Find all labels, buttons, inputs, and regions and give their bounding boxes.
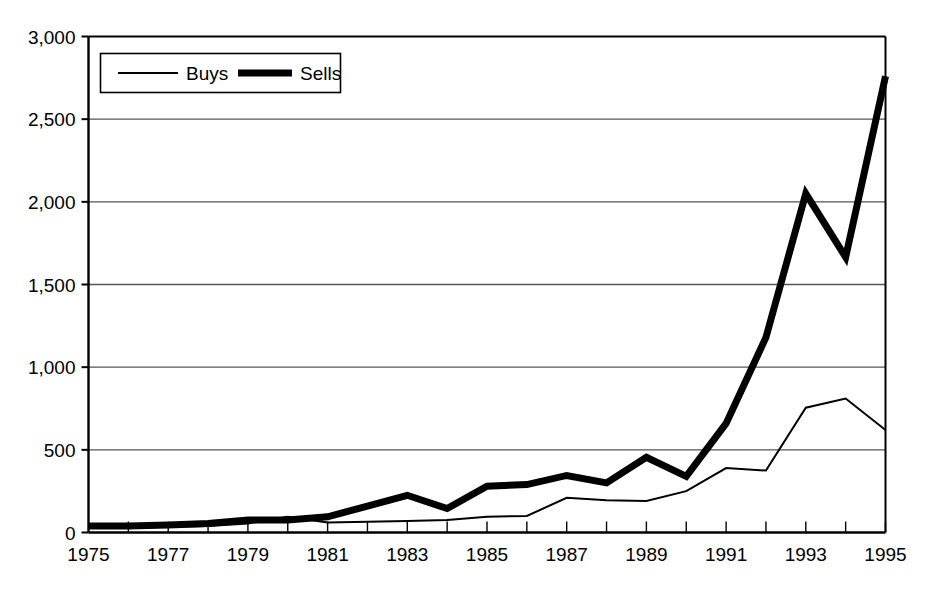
line-chart: 05001,0001,5002,0002,5003,00019751977197… — [0, 0, 936, 599]
legend: BuysSells — [101, 54, 342, 93]
x-tick-label: 1981 — [306, 544, 348, 565]
legend-label-sells: Sells — [300, 63, 341, 84]
y-tick-label: 1,500 — [28, 275, 76, 296]
x-tick-label: 1995 — [864, 544, 906, 565]
x-tick-label: 1979 — [227, 544, 269, 565]
y-tick-label: 500 — [44, 440, 76, 461]
series-line-buys — [89, 399, 886, 528]
x-tick-label: 1975 — [67, 544, 109, 565]
series-line-sells — [89, 76, 886, 526]
legend-label-buys: Buys — [186, 63, 228, 84]
x-tick-labels: 1975197719791981198319851987198919911993… — [67, 544, 906, 565]
x-tick-label: 1989 — [625, 544, 667, 565]
x-tick-label: 1985 — [466, 544, 508, 565]
y-tick-label: 2,500 — [28, 109, 76, 130]
x-tick-label: 1977 — [147, 544, 189, 565]
y-tick-labels: 05001,0001,5002,0002,5003,000 — [28, 27, 76, 544]
chart-canvas: 05001,0001,5002,0002,5003,00019751977197… — [0, 0, 936, 599]
x-tick-label: 1987 — [546, 544, 588, 565]
y-tick-label: 2,000 — [28, 192, 76, 213]
y-tick-label: 1,000 — [28, 357, 76, 378]
gridlines — [89, 119, 886, 450]
x-tick-label: 1991 — [705, 544, 747, 565]
y-tick-label: 3,000 — [28, 27, 76, 48]
x-tick-label: 1993 — [785, 544, 827, 565]
x-tick-label: 1983 — [386, 544, 428, 565]
data-series-group — [89, 76, 886, 527]
y-tick-label: 0 — [65, 523, 76, 544]
